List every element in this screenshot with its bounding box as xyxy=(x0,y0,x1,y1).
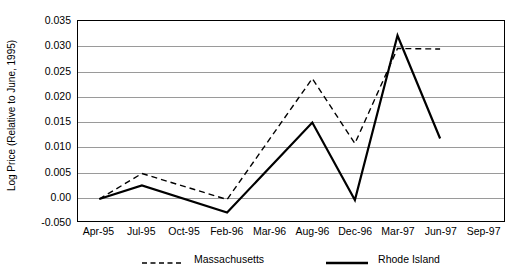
legend-entry: Massachusetts xyxy=(142,253,264,265)
legend-label: Massachusetts xyxy=(194,253,264,265)
x-axis-tick-label: Sep-97 xyxy=(454,225,514,238)
series-line-rhode-island xyxy=(99,36,440,213)
y-axis-tick-label: 0.00 xyxy=(19,191,71,203)
x-axis-tick-labels: Apr-95Jul-95Oct-95Feb-96Mar-96Aug-96Dec-… xyxy=(77,225,505,241)
y-axis-tick-label: -0.050 xyxy=(19,216,71,228)
plot-area xyxy=(77,20,505,222)
y-axis-tick-label: 0.030 xyxy=(19,39,71,51)
line-chart: Log Price (Relative to June, 1995) 0.035… xyxy=(0,0,520,276)
legend-swatch-dashed xyxy=(142,254,184,264)
legend-entry: Rhode Island xyxy=(326,253,440,265)
y-axis-tick-label: 0.010 xyxy=(19,140,71,152)
y-axis-tick-label: 0.020 xyxy=(19,90,71,102)
y-axis-tick-label: 0.035 xyxy=(19,14,71,26)
y-axis-tick-labels: 0.0350.0300.0250.0200.0150.0100.0050.00-… xyxy=(22,14,74,228)
series-lines xyxy=(78,21,504,221)
legend-swatch-solid xyxy=(326,254,368,264)
y-axis-tick-label: 0.025 xyxy=(19,65,71,77)
y-axis-title-label: Log Price (Relative to June, 1995) xyxy=(7,39,18,190)
chart-legend: MassachusettsRhode Island xyxy=(77,249,505,269)
legend-label: Rhode Island xyxy=(378,253,440,265)
y-axis-tick-label: 0.005 xyxy=(19,166,71,178)
y-axis-tick-label: 0.015 xyxy=(19,115,71,127)
